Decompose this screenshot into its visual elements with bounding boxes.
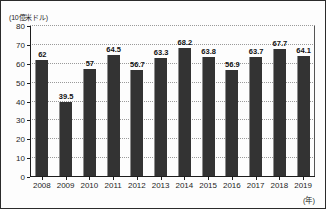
x-tick (232, 177, 233, 180)
x-tick-label-2008: 2008 (30, 181, 54, 193)
x-tick (161, 177, 162, 180)
bar-series: 6239.55764.556.763.368.263.856.963.767.7… (30, 26, 315, 177)
bar-value-label: 67.7 (273, 39, 288, 48)
bar-value-label: 63.8 (201, 47, 216, 56)
bar-value-label: 63.3 (154, 48, 169, 57)
y-tick-0 (27, 177, 30, 178)
x-tick (66, 177, 67, 180)
bar: 64.1 (297, 56, 310, 177)
bar-value-label: 56.9 (225, 60, 240, 69)
bar: 57 (83, 69, 96, 177)
x-tick-label-2019: 2019 (291, 181, 315, 193)
bar-slot: 63.8 (196, 26, 220, 177)
x-tick-label-2016: 2016 (220, 181, 244, 193)
x-tick (113, 177, 114, 180)
x-tick-label-2014: 2014 (173, 181, 197, 193)
bar-value-label: 57 (86, 59, 94, 68)
y-tick-label-30: 30 (16, 116, 25, 125)
bar: 56.7 (130, 70, 143, 177)
x-tick-label-2015: 2015 (196, 181, 220, 193)
bar: 62 (35, 60, 48, 177)
y-tick-label-50: 50 (16, 78, 25, 87)
x-axis-tick-labels: 2008200920102011201220132014201520162017… (30, 181, 315, 193)
bar-slot: 67.7 (268, 26, 292, 177)
bar-slot: 68.2 (173, 26, 197, 177)
y-tick-label-0: 0 (21, 173, 25, 182)
bar-slot: 63.7 (244, 26, 268, 177)
plot-inner: 01020304050607080 6239.55764.556.763.368… (30, 26, 315, 177)
bar: 63.7 (249, 57, 262, 177)
x-tick (303, 177, 304, 180)
y-axis-unit-label: (10億米ドル) (9, 12, 48, 22)
bar-slot: 56.7 (125, 26, 149, 177)
bar-value-label: 62 (38, 50, 46, 59)
bar-slot: 57 (78, 26, 102, 177)
bar: 67.7 (273, 49, 286, 177)
bar-slot: 64.1 (291, 26, 315, 177)
x-axis-line (30, 176, 315, 177)
x-tick-label-2012: 2012 (125, 181, 149, 193)
x-axis-title: (年) (303, 194, 315, 205)
bar-slot: 62 (30, 26, 54, 177)
x-tick-label-2017: 2017 (244, 181, 268, 193)
bar-value-label: 63.7 (249, 47, 264, 56)
bar-slot: 64.5 (101, 26, 125, 177)
x-tick-label-2009: 2009 (54, 181, 78, 193)
x-tick (208, 177, 209, 180)
y-tick-label-70: 70 (16, 40, 25, 49)
bar-value-label: 56.7 (130, 60, 145, 69)
x-tick (256, 177, 257, 180)
x-tick (89, 177, 90, 180)
x-tick-label-2013: 2013 (149, 181, 173, 193)
bar-value-label: 64.5 (106, 45, 121, 54)
plot-right-border (314, 26, 315, 177)
x-tick (137, 177, 138, 180)
bar-slot: 39.5 (54, 26, 78, 177)
bar: 56.9 (225, 70, 238, 177)
bar: 63.8 (202, 57, 215, 177)
x-tick-label-2018: 2018 (268, 181, 292, 193)
plot-area: 01020304050607080 6239.55764.556.763.368… (30, 26, 315, 177)
bar-chart-figure: (10億米ドル) 01020304050607080 6239.55764.55… (0, 0, 326, 209)
bar-slot: 63.3 (149, 26, 173, 177)
bar: 68.2 (178, 48, 191, 177)
x-tick (279, 177, 280, 180)
x-tick (184, 177, 185, 180)
bar: 64.5 (107, 55, 120, 177)
x-tick (42, 177, 43, 180)
x-tick-label-2010: 2010 (78, 181, 102, 193)
bar-value-label: 68.2 (178, 38, 193, 47)
y-tick-label-10: 10 (16, 154, 25, 163)
y-tick-label-80: 80 (16, 22, 25, 31)
y-tick-label-20: 20 (16, 135, 25, 144)
y-axis-line (30, 26, 31, 177)
x-tick-label-2011: 2011 (101, 181, 125, 193)
bar: 39.5 (59, 102, 72, 177)
y-tick-label-40: 40 (16, 97, 25, 106)
y-tick-label-60: 60 (16, 59, 25, 68)
bar-value-label: 64.1 (296, 46, 311, 55)
bar-slot: 56.9 (220, 26, 244, 177)
bar: 63.3 (154, 58, 167, 177)
bar-value-label: 39.5 (59, 92, 74, 101)
